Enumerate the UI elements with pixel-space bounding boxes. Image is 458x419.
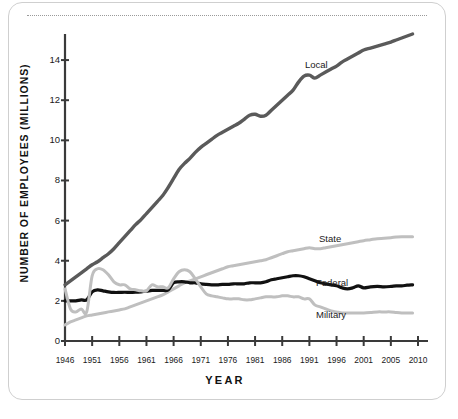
x-tick-label: 2001 [354,355,373,365]
x-axis-tick-labels: 1946195119561961196619711976198119861991… [0,345,458,365]
y-tick-label: 6 [38,215,60,226]
x-tick-label: 1956 [110,355,129,365]
x-tick-label: 1961 [137,355,156,365]
series-line-local [65,34,413,285]
x-tick-label: 1951 [83,355,102,365]
y-tick-label: 14 [38,54,60,65]
series-label-state: State [319,233,341,244]
chart-plot-area: 02468101214 1946195119561961196619711976… [0,0,458,419]
x-axis-title: YEAR [130,374,320,386]
x-tick-label: 1966 [164,355,183,365]
x-tick-label: 1986 [273,355,292,365]
y-axis-title: NUMBER OF EMPLOYEES (MILLIONS) [18,48,30,298]
series-line-federal [65,276,413,301]
x-tick-label: 1946 [56,355,75,365]
series-label-local: Local [305,59,328,70]
x-tick-label: 1971 [191,355,210,365]
y-tick-label: 10 [38,134,60,145]
x-tick-label: 2010 [409,355,428,365]
y-tick-label: 4 [38,255,60,266]
chart-series-lines [65,34,413,325]
x-tick-label: 1981 [246,355,265,365]
x-tick-label: 1991 [300,355,319,365]
y-tick-label: 2 [38,295,60,306]
x-tick-label: 1976 [219,355,238,365]
x-tick-label: 2005 [382,355,401,365]
series-label-military: Military [316,309,346,320]
y-tick-label: 8 [38,174,60,185]
y-tick-label: 12 [38,94,60,105]
x-tick-label: 1996 [327,355,346,365]
series-label-federal: Federal [316,277,348,288]
